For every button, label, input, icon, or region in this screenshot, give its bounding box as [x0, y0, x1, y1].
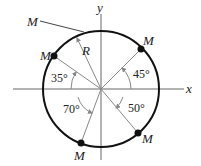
angle-label-50: 50° [128, 101, 145, 115]
point-label-lower-right: M [141, 131, 154, 146]
radius-label: R [81, 43, 90, 58]
angle-arc-70 [78, 97, 92, 113]
point-upper-left [51, 53, 58, 60]
angle-label-35: 35° [51, 71, 68, 85]
angle-label-45: 45° [133, 67, 150, 81]
angle-arc-50 [116, 97, 123, 108]
point-label-upper-left: M [39, 48, 52, 63]
point-lower-left [78, 140, 85, 147]
y-axis-label: y [95, 0, 103, 15]
x-axis-label: x [185, 81, 192, 96]
point-lower-right [135, 130, 142, 137]
angle-arc-35 [71, 72, 76, 89]
circle-diagram: x y R M 35° 45° 70° 50° M M M M [0, 0, 201, 166]
pointer-line [40, 21, 84, 32]
point-label-lower-left: M [73, 148, 86, 163]
angle-arc-45 [122, 68, 131, 89]
point-label-upper-right: M [142, 33, 155, 48]
pointer-label: M [26, 14, 39, 29]
angle-label-70: 70° [63, 102, 80, 116]
radius-line-70 [81, 89, 101, 143]
